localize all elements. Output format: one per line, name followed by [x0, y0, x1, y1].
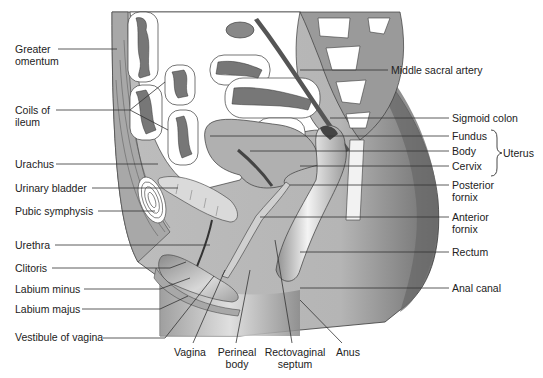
- label-greater-omentum: Greater omentum: [15, 43, 59, 67]
- label-urachus: Urachus: [15, 158, 54, 170]
- label-perineal-body: Perineal body: [215, 346, 259, 370]
- label-urinary-bladder: Urinary bladder: [15, 182, 87, 194]
- label-fundus: Fundus: [452, 130, 487, 142]
- label-posterior-fornix: Posterior fornix: [452, 179, 494, 203]
- label-labium-majus: Labium majus: [15, 303, 80, 315]
- label-line: omentum: [15, 55, 59, 67]
- label-vestibule-of-vagina: Vestibule of vagina: [15, 331, 103, 343]
- label-middle-sacral-artery: Middle sacral artery: [391, 64, 483, 76]
- label-clitoris: Clitoris: [15, 262, 47, 274]
- label-coils-of-ileum: Coils of ileum: [15, 104, 50, 128]
- label-anal-canal: Anal canal: [452, 282, 501, 294]
- label-line: body: [226, 358, 249, 370]
- label-line: Perineal: [218, 346, 257, 358]
- label-line: ileum: [15, 116, 40, 128]
- label-labium-minus: Labium minus: [15, 283, 80, 295]
- label-line: Rectovaginal: [265, 346, 326, 358]
- label-line: Anterior: [452, 211, 489, 223]
- label-urethra: Urethra: [15, 239, 50, 251]
- label-body: Body: [452, 145, 476, 157]
- label-line: fornix: [452, 223, 478, 235]
- label-cervix: Cervix: [452, 160, 482, 172]
- label-pubic-symphysis: Pubic symphysis: [15, 205, 93, 217]
- label-vagina: Vagina: [174, 346, 206, 358]
- label-sigmoid-colon: Sigmoid colon: [452, 112, 518, 124]
- label-line: Posterior: [452, 179, 494, 191]
- label-anus: Anus: [336, 346, 360, 358]
- label-line: fornix: [452, 191, 478, 203]
- label-rectovaginal-septum: Rectovaginal septum: [262, 346, 328, 370]
- label-line: Greater: [15, 43, 51, 55]
- label-uterus: Uterus: [503, 147, 534, 159]
- label-line: Coils of: [15, 104, 50, 116]
- label-rectum: Rectum: [452, 246, 488, 258]
- label-line: septum: [278, 358, 312, 370]
- label-anterior-fornix: Anterior fornix: [452, 211, 489, 235]
